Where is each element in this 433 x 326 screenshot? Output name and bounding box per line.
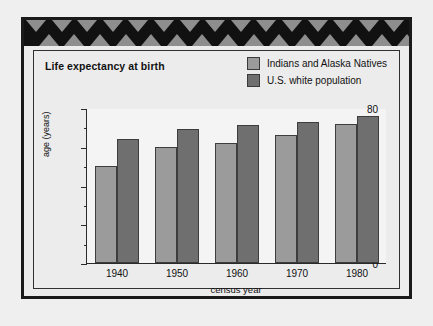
x-axis-label: census year (86, 284, 386, 295)
triangle-icon (126, 20, 152, 33)
bar-white-1960[interactable] (237, 125, 259, 263)
x-tick-label: 1950 (166, 268, 188, 279)
triangle-icon (190, 33, 216, 46)
triangle-icon (408, 20, 409, 33)
chart-card: Life expectancy at birth Indians and Ala… (33, 50, 400, 289)
bar-white-1950[interactable] (177, 129, 199, 263)
triangle-icon (101, 20, 127, 33)
decorative-triangle-border (24, 20, 409, 46)
triangle-icon (357, 20, 383, 33)
legend-label-native: Indians and Alaska Natives (267, 58, 387, 69)
y-tick-minor (84, 128, 88, 129)
triangle-icon (152, 20, 178, 33)
triangle-icon (370, 33, 396, 46)
bar-native-1950[interactable] (155, 147, 177, 263)
triangle-icon (216, 33, 242, 46)
triangle-icon (37, 33, 63, 46)
triangle-icon (293, 33, 319, 46)
triangle-icon (382, 20, 408, 33)
triangle-icon (88, 33, 114, 46)
triangle-icon (318, 33, 344, 46)
triangle-icon (62, 33, 88, 46)
y-tick-minor (84, 206, 88, 207)
chart-legend: Indians and Alaska Natives U.S. white po… (247, 57, 387, 87)
legend-swatch-native (247, 57, 260, 70)
plot-wrapper: age (years) 0204060801940195019601970198… (34, 99, 399, 288)
legend-swatch-white (247, 74, 260, 87)
legend-item-native[interactable]: Indians and Alaska Natives (247, 57, 387, 70)
triangle-icon (242, 33, 268, 46)
triangle-row-top (24, 20, 409, 33)
y-tick-major (81, 148, 87, 149)
bar-group (275, 122, 319, 263)
bar-group (215, 125, 259, 263)
bar-native-1980[interactable] (335, 124, 357, 264)
y-tick-minor (84, 167, 88, 168)
triangle-row-bottom (37, 33, 409, 46)
legend-label-white: U.S. white population (267, 75, 362, 86)
triangle-icon (24, 20, 50, 33)
x-tick-label: 1960 (226, 268, 248, 279)
y-axis-label: age (years) (41, 111, 51, 157)
triangle-icon (395, 33, 409, 46)
triangle-icon (229, 20, 255, 33)
triangle-icon (114, 33, 140, 46)
triangle-icon (344, 33, 370, 46)
y-tick-label: 80 (367, 104, 378, 115)
triangle-icon (50, 20, 76, 33)
bar-group (95, 139, 139, 263)
triangle-icon (139, 33, 165, 46)
triangle-icon (75, 20, 101, 33)
y-tick-major (81, 187, 87, 188)
triangle-icon (280, 20, 306, 33)
triangle-icon (254, 20, 280, 33)
triangle-icon (331, 20, 357, 33)
triangle-icon (267, 33, 293, 46)
bar-native-1970[interactable] (275, 135, 297, 263)
x-tick-label: 1940 (106, 268, 128, 279)
figure-panel: Life expectancy at birth Indians and Ala… (21, 17, 412, 299)
bar-white-1970[interactable] (297, 122, 319, 263)
y-tick-major (81, 225, 87, 226)
bar-white-1980[interactable] (357, 116, 379, 263)
bar-native-1960[interactable] (215, 143, 237, 263)
x-tick-label: 1980 (346, 268, 368, 279)
triangle-icon (306, 20, 332, 33)
y-tick-major (81, 264, 87, 265)
plot-area: 02040608019401950196019701980 (86, 109, 386, 264)
bar-group (155, 129, 199, 263)
y-tick-minor (84, 245, 88, 246)
bar-group (335, 116, 379, 263)
legend-item-white[interactable]: U.S. white population (247, 74, 387, 87)
triangle-icon (178, 20, 204, 33)
y-tick-major (81, 109, 87, 110)
bar-white-1940[interactable] (117, 139, 139, 263)
x-tick-label: 1970 (286, 268, 308, 279)
triangle-icon (203, 20, 229, 33)
page-title: Life expectancy at birth (45, 60, 165, 72)
triangle-icon (165, 33, 191, 46)
bar-native-1940[interactable] (95, 166, 117, 263)
